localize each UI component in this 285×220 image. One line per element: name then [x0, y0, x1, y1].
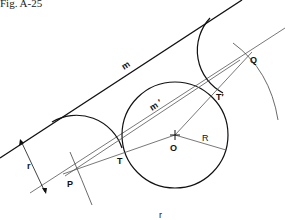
geometry-diagram: m m ′ r P T O R T′ Q r — [0, 0, 285, 220]
arrowhead-bottom-icon — [42, 188, 47, 194]
line-m-prime — [30, 28, 285, 193]
arc-tangent-right — [197, 18, 223, 93]
label-q: Q — [250, 55, 257, 65]
arc-tangent-left — [52, 115, 122, 148]
label-t-prime: T′ — [216, 92, 224, 102]
label-o: O — [170, 143, 177, 153]
line-o-q — [175, 52, 252, 135]
label-r-radius: R — [202, 133, 209, 143]
label-r-bottom: r — [159, 210, 162, 220]
label-p: P — [67, 179, 73, 189]
label-r-side: r — [27, 161, 31, 171]
radius-r — [175, 135, 226, 150]
label-m-prime: m ′ — [148, 97, 164, 112]
label-t: T — [117, 156, 123, 166]
dimension-r — [21, 141, 45, 192]
label-m: m — [120, 59, 132, 72]
